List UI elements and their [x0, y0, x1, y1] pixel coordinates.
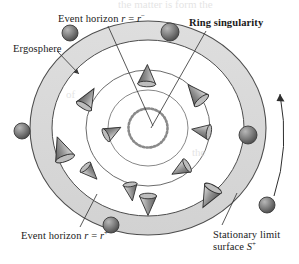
- label-stationary-limit-line1: Stationary limit: [213, 229, 280, 241]
- light-cone: [181, 79, 210, 109]
- light-cone: [190, 122, 212, 140]
- label-equals: =: [88, 230, 99, 241]
- light-cone: [138, 64, 157, 87]
- label-ergosphere: Ergosphere: [13, 43, 62, 55]
- label-event-horizon-outer: Event horizon r = r+: [21, 230, 108, 242]
- label-event-horizon-inner: Event horizon r = r−: [58, 13, 145, 25]
- label-stationary-limit-surface: Stationary limit surface S+: [213, 229, 280, 252]
- label-sup-plus: +: [252, 239, 256, 247]
- ghost-text-line: of: [66, 88, 75, 100]
- leader-ring-singularity: [151, 31, 206, 128]
- light-cone: [101, 121, 125, 143]
- label-equals: =: [125, 13, 136, 24]
- figure-container: the matter is form the of the Event hori…: [0, 0, 299, 264]
- ghost-text-line: the matter is form the: [118, 0, 213, 10]
- light-cone: [139, 193, 156, 215]
- label-stationary-limit-line2: surface S+: [213, 241, 280, 253]
- label-surface-text: surface: [213, 241, 247, 252]
- label-sup-minus: −: [141, 12, 145, 20]
- sphere: [239, 126, 257, 144]
- label-ring-singularity: Ring singularity: [189, 17, 263, 29]
- ghost-text-line: the: [192, 146, 205, 158]
- sphere: [14, 123, 30, 139]
- light-cone: [75, 84, 101, 112]
- label-event-horizon-outer-text: Event horizon: [21, 230, 84, 241]
- label-event-horizon-inner-text: Event horizon: [58, 13, 121, 24]
- sphere: [259, 197, 275, 213]
- light-cone: [79, 161, 102, 184]
- label-sup-plus: +: [104, 229, 108, 237]
- sphere: [62, 25, 78, 41]
- rotation-arrow: [274, 94, 285, 196]
- kerr-black-hole-diagram: [0, 0, 299, 264]
- sphere: [161, 23, 179, 41]
- light-cone: [123, 181, 139, 202]
